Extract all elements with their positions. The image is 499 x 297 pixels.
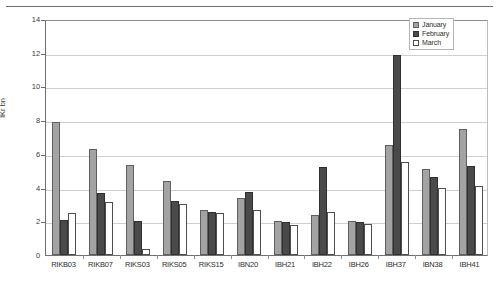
x-axis-tick-mark <box>157 255 158 259</box>
bar-february[interactable] <box>467 166 475 255</box>
x-axis-tick-mark <box>83 255 84 259</box>
bar-group <box>268 21 305 255</box>
bar-march[interactable] <box>253 210 261 256</box>
legend-item-march[interactable]: March <box>413 39 449 46</box>
x-axis-tick-mark <box>231 255 232 259</box>
bar-group <box>120 21 157 255</box>
bar-february[interactable] <box>171 201 179 255</box>
x-axis-label: RIKS05 <box>156 260 193 269</box>
bar-february[interactable] <box>430 177 438 255</box>
bar-january[interactable] <box>422 169 430 255</box>
y-axis-tick-label: 0 <box>20 251 40 260</box>
bar-february[interactable] <box>208 212 216 255</box>
x-axis-tick-mark <box>120 255 121 259</box>
legend-label-february: February <box>422 30 449 37</box>
y-axis-tick-mark <box>41 121 45 122</box>
bar-february[interactable] <box>97 193 105 255</box>
top-divider <box>6 6 493 7</box>
bar-group <box>231 21 268 255</box>
bar-february[interactable] <box>319 167 327 256</box>
x-axis-label: IBH26 <box>340 260 377 269</box>
x-axis-label: RIKB03 <box>45 260 82 269</box>
x-axis-label: RIKS15 <box>193 260 230 269</box>
bar-january[interactable] <box>126 165 134 255</box>
bar-march[interactable] <box>401 162 409 255</box>
y-axis-tick-label: 8 <box>20 116 40 125</box>
bar-march[interactable] <box>327 212 335 255</box>
bar-january[interactable] <box>163 181 171 255</box>
legend-label-march: March <box>422 39 441 46</box>
chart-screenshot: ÍKr bn 02468101214 RIKB03RIKB07RIKS03RIK… <box>0 0 499 297</box>
bar-group <box>46 21 83 255</box>
bar-january[interactable] <box>348 221 356 255</box>
x-axis-label: RIKB07 <box>82 260 119 269</box>
bar-march[interactable] <box>68 213 76 255</box>
bars-layer <box>46 21 487 255</box>
x-axis-label: IBH21 <box>267 260 304 269</box>
y-axis-tick-mark <box>41 155 45 156</box>
bar-group <box>304 21 341 255</box>
bar-january[interactable] <box>459 129 467 255</box>
x-axis-label: IBH22 <box>303 260 340 269</box>
x-axis-tick-mark <box>378 255 379 259</box>
bar-march[interactable] <box>438 188 446 255</box>
bar-january[interactable] <box>52 122 60 255</box>
y-axis-tick-label: 6 <box>20 150 40 159</box>
y-axis-tick-label: 2 <box>20 217 40 226</box>
x-axis-tick-mark <box>194 255 195 259</box>
y-axis-title: ÍKr bn <box>0 98 7 118</box>
bar-march[interactable] <box>475 186 483 255</box>
legend-item-february[interactable]: February <box>413 30 449 37</box>
bar-january[interactable] <box>385 145 393 255</box>
y-axis-tick-mark <box>41 20 45 21</box>
bar-group <box>341 21 378 255</box>
legend-swatch-february-icon <box>413 31 419 37</box>
y-axis-tick-label: 10 <box>20 82 40 91</box>
bar-february[interactable] <box>60 220 68 255</box>
bar-group <box>378 21 415 255</box>
bar-group <box>194 21 231 255</box>
x-axis-label: IBH37 <box>377 260 414 269</box>
bar-march[interactable] <box>179 204 187 255</box>
bar-january[interactable] <box>237 198 245 255</box>
bar-january[interactable] <box>200 210 208 255</box>
x-axis-label: RIKS03 <box>119 260 156 269</box>
bar-january[interactable] <box>311 215 319 255</box>
bar-march[interactable] <box>142 249 150 255</box>
bar-march[interactable] <box>216 213 224 255</box>
bar-february[interactable] <box>282 222 290 255</box>
bar-march[interactable] <box>105 202 113 255</box>
x-axis-tick-mark <box>268 255 269 259</box>
bar-group <box>415 21 452 255</box>
bar-group <box>452 21 489 255</box>
x-axis-tick-mark <box>452 255 453 259</box>
legend: January February March <box>409 18 454 50</box>
x-axis-label: IBN38 <box>414 260 451 269</box>
bar-march[interactable] <box>364 224 372 255</box>
legend-item-january[interactable]: January <box>413 21 449 28</box>
bar-february[interactable] <box>356 222 364 255</box>
y-axis-tick-label: 12 <box>20 49 40 58</box>
plot-area <box>45 20 488 256</box>
x-axis-tick-mark <box>415 255 416 259</box>
x-axis-label: IBH41 <box>451 260 488 269</box>
x-axis-tick-mark <box>304 255 305 259</box>
bar-february[interactable] <box>245 192 253 255</box>
bar-group <box>83 21 120 255</box>
y-axis-tick-mark <box>41 189 45 190</box>
bar-february[interactable] <box>393 55 401 255</box>
y-axis-tick-mark <box>41 222 45 223</box>
y-axis-tick-label: 14 <box>20 15 40 24</box>
legend-swatch-january-icon <box>413 22 419 28</box>
y-axis-tick-mark <box>41 54 45 55</box>
bar-february[interactable] <box>134 221 142 255</box>
y-axis-tick-label: 4 <box>20 184 40 193</box>
legend-label-january: January <box>422 21 446 28</box>
y-axis-tick-mark <box>41 87 45 88</box>
legend-swatch-march-icon <box>413 40 419 46</box>
bar-march[interactable] <box>290 225 298 255</box>
bar-group <box>157 21 194 255</box>
bar-january[interactable] <box>89 149 97 255</box>
bar-january[interactable] <box>274 221 282 255</box>
x-axis-tick-mark <box>341 255 342 259</box>
